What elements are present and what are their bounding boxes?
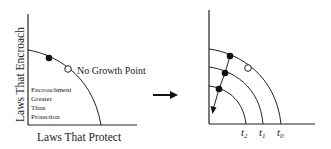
label-t1: t1 bbox=[259, 126, 266, 140]
region-label-line-1: Encroachment bbox=[31, 86, 71, 94]
right-panel: t2 t1 t0 bbox=[209, 10, 315, 140]
label-t2: t2 bbox=[241, 126, 248, 140]
region-label-line-2: Greater bbox=[31, 95, 53, 103]
no-growth-point-right bbox=[245, 65, 252, 72]
point-t1 bbox=[222, 70, 229, 77]
label-t0: t0 bbox=[277, 126, 284, 140]
no-growth-point bbox=[65, 66, 72, 73]
left-panel: No Growth Point Laws That Encroach Laws … bbox=[14, 14, 146, 143]
ppf-diagram: No Growth Point Laws That Encroach Laws … bbox=[0, 0, 331, 149]
filled-point bbox=[46, 55, 53, 62]
no-growth-point-label: No Growth Point bbox=[77, 65, 146, 76]
region-label-line-3: Than bbox=[31, 104, 46, 112]
point-t0 bbox=[227, 53, 234, 60]
decline-arrowhead-icon bbox=[211, 106, 217, 114]
decline-path bbox=[214, 56, 231, 108]
x-axis-label: Laws That Protect bbox=[37, 131, 122, 143]
point-t2 bbox=[216, 86, 223, 93]
region-label-line-4: Protection bbox=[31, 113, 60, 121]
y-axis-label: Laws That Encroach bbox=[14, 27, 26, 122]
right-arrow-icon bbox=[153, 91, 178, 99]
